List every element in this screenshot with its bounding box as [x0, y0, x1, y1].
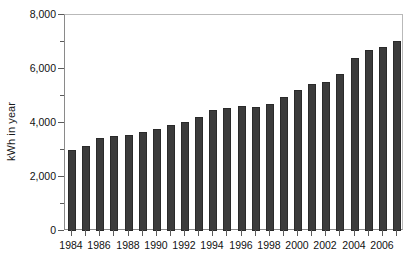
x-axis-tick — [354, 230, 355, 236]
x-axis-tick-label: 1988 — [116, 239, 139, 251]
x-axis-tick-label: 2004 — [342, 239, 365, 251]
y-axis-tick-label: 2,000 — [4, 170, 56, 182]
bar — [393, 41, 401, 231]
bar — [195, 117, 203, 231]
bar — [365, 50, 373, 231]
bar — [68, 150, 76, 231]
bar — [238, 106, 246, 231]
bar — [82, 146, 90, 231]
x-axis-tick — [71, 230, 72, 236]
x-axis-tick — [396, 230, 397, 236]
bar — [266, 104, 274, 231]
bar-chart: kWh in year 02,0004,0006,0008,000 198419… — [0, 0, 417, 263]
bar — [96, 138, 104, 231]
x-axis-tick-label: 1994 — [200, 239, 223, 251]
x-axis-tick — [113, 230, 114, 236]
bar — [139, 132, 147, 231]
y-axis-tick-label: 6,000 — [4, 62, 56, 74]
x-axis-tick-label: 2000 — [285, 239, 308, 251]
x-axis-tick-label: 1984 — [59, 239, 82, 251]
x-axis-tick — [325, 230, 326, 236]
x-axis-tick — [311, 230, 312, 236]
x-axis-tick — [255, 230, 256, 236]
x-axis-tick-label: 1996 — [229, 239, 252, 251]
bar — [125, 135, 133, 231]
x-axis-tick — [85, 230, 86, 236]
bar — [351, 58, 359, 231]
x-axis-tick — [226, 230, 227, 236]
bar — [153, 129, 161, 231]
x-axis-tick-label: 1986 — [87, 239, 110, 251]
bar — [308, 84, 316, 231]
x-axis-tick — [297, 230, 298, 236]
x-axis-tick — [184, 230, 185, 236]
y-axis-tick-label: 4,000 — [4, 116, 56, 128]
x-axis-tick — [170, 230, 171, 236]
x-axis-tick-label: 2002 — [313, 239, 336, 251]
y-axis-tick-label: 8,000 — [4, 8, 56, 20]
x-axis-tick-label: 2006 — [370, 239, 393, 251]
bar — [294, 90, 302, 231]
bar — [336, 74, 344, 231]
x-axis-tick-label: 1992 — [172, 239, 195, 251]
x-axis-tick — [128, 230, 129, 236]
bar — [209, 110, 217, 232]
bar — [280, 97, 288, 231]
x-axis-tick — [142, 230, 143, 236]
x-axis-tick — [283, 230, 284, 236]
bar — [110, 136, 118, 231]
bar — [181, 122, 189, 231]
y-axis-tick-label: 0 — [4, 224, 56, 236]
bar — [167, 125, 175, 231]
x-axis-tick — [212, 230, 213, 236]
x-axis-tick — [198, 230, 199, 236]
y-axis-tick — [58, 230, 64, 231]
plot-area — [64, 14, 403, 230]
x-axis-tick — [241, 230, 242, 236]
bar — [252, 107, 260, 231]
x-axis-tick — [368, 230, 369, 236]
x-axis-tick-label: 1990 — [144, 239, 167, 251]
x-axis-tick — [99, 230, 100, 236]
x-axis-tick — [382, 230, 383, 236]
x-axis-tick-label: 1998 — [257, 239, 280, 251]
x-axis-tick — [339, 230, 340, 236]
x-axis-tick — [269, 230, 270, 236]
bar — [322, 82, 330, 231]
bar — [223, 108, 231, 231]
x-axis-tick — [156, 230, 157, 236]
bar — [379, 47, 387, 231]
